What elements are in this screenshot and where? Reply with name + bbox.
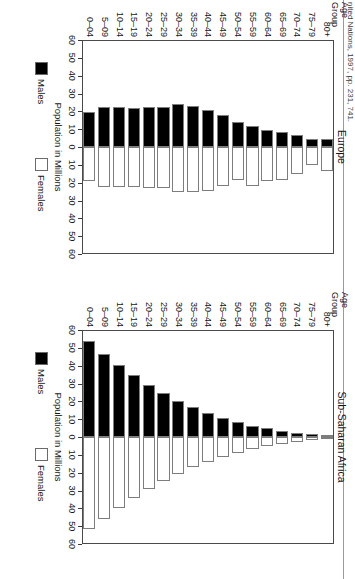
bar-males [83,112,95,147]
legend-swatch-females [35,158,48,171]
axis-tick [78,330,82,331]
bar-males [202,110,214,147]
panel-title: Europe [336,40,348,254]
bar-females [291,437,303,442]
axis-tick [78,437,82,438]
axis-tick [78,366,82,367]
category-label: 70–74 [292,292,302,327]
category-label: 55–59 [248,2,258,37]
category-label: 40–44 [204,292,214,327]
bar-males [83,341,95,437]
category-label: 50–54 [233,292,243,327]
axis-tick [78,58,82,59]
axis-tick [78,129,82,130]
legend-label-males: Males [36,369,47,394]
bar-males [217,115,229,147]
bar-females [128,147,140,187]
bar-males [128,108,140,147]
axis-tick-label: 60 [67,243,77,265]
bar-females [217,147,229,186]
category-label: 65–69 [278,292,288,327]
category-label: 75–79 [307,2,317,37]
axis-tick [78,94,82,95]
legend-swatch-males [35,352,48,365]
bar-males [98,107,110,147]
axis-tick [78,419,82,420]
bar-females [187,147,199,192]
bar-males [321,139,333,147]
category-label: 65–69 [278,2,288,37]
bar-females [83,147,95,181]
bar-males [306,139,318,147]
bar-males [98,354,110,437]
bar-males [172,401,184,437]
category-label: 0–04 [85,2,95,37]
bar-males [261,428,273,437]
bar-females [232,147,244,180]
bar-females [261,147,273,181]
category-label: 15–19 [129,292,139,327]
category-axis-header-line1: Age [340,292,350,308]
bar-males [217,418,229,437]
bar-males [232,122,244,147]
value-axis-label: Population in Millions [53,40,64,254]
axis-tick [78,76,82,77]
bar-females [98,437,110,519]
value-axis-label: Population in Millions [53,330,64,544]
bar-females [113,147,125,187]
axis-tick [78,183,82,184]
bar-males [113,107,125,147]
category-label: 35–39 [189,2,199,37]
category-label: 30–34 [174,292,184,327]
bar-males [232,422,244,437]
bar-males [202,413,214,437]
bar-males [172,104,184,147]
axis-tick [78,473,82,474]
bar-females [291,147,303,174]
axis-tick [78,165,82,166]
bar-females [143,147,155,188]
bar-females [83,437,95,529]
bar-males [246,126,258,147]
category-axis-header-line1: Age [340,2,350,18]
bar-males [276,132,288,147]
bar-females [113,437,125,508]
axis-tick-label: 60 [67,533,77,555]
bar-males [246,426,258,437]
category-label: 80+ [322,2,332,37]
bar-females [157,147,169,188]
category-label: 45–49 [218,2,228,37]
panel-europe: EuropeAgeGroup80+75–7970–7465–6960–6455–… [0,0,348,289]
bar-females [143,437,155,489]
bar-females [276,437,288,444]
axis-tick [78,455,82,456]
bar-males [261,130,273,147]
bar-females [246,437,258,449]
axis-tick [78,40,82,41]
bar-females [276,147,288,180]
axis-tick [78,401,82,402]
bar-females [306,147,318,165]
bar-females [172,437,184,474]
axis-tick [78,236,82,237]
category-label: 20–24 [144,2,154,37]
bar-females [246,147,258,186]
category-label: 60–64 [263,2,273,37]
category-label: 0–04 [85,292,95,327]
category-label: 5–09 [100,292,110,327]
bar-females [202,147,214,191]
category-label: 35–39 [189,292,199,327]
category-label: 45–49 [218,292,228,327]
category-label: 10–14 [115,2,125,37]
bar-females [217,437,229,457]
category-label: 50–54 [233,2,243,37]
category-label: 70–74 [292,2,302,37]
bar-females [306,437,318,440]
bar-females [172,147,184,192]
axis-tick [78,384,82,385]
category-label: 10–14 [115,292,125,327]
axis-tick [78,254,82,255]
bar-females [321,147,333,171]
